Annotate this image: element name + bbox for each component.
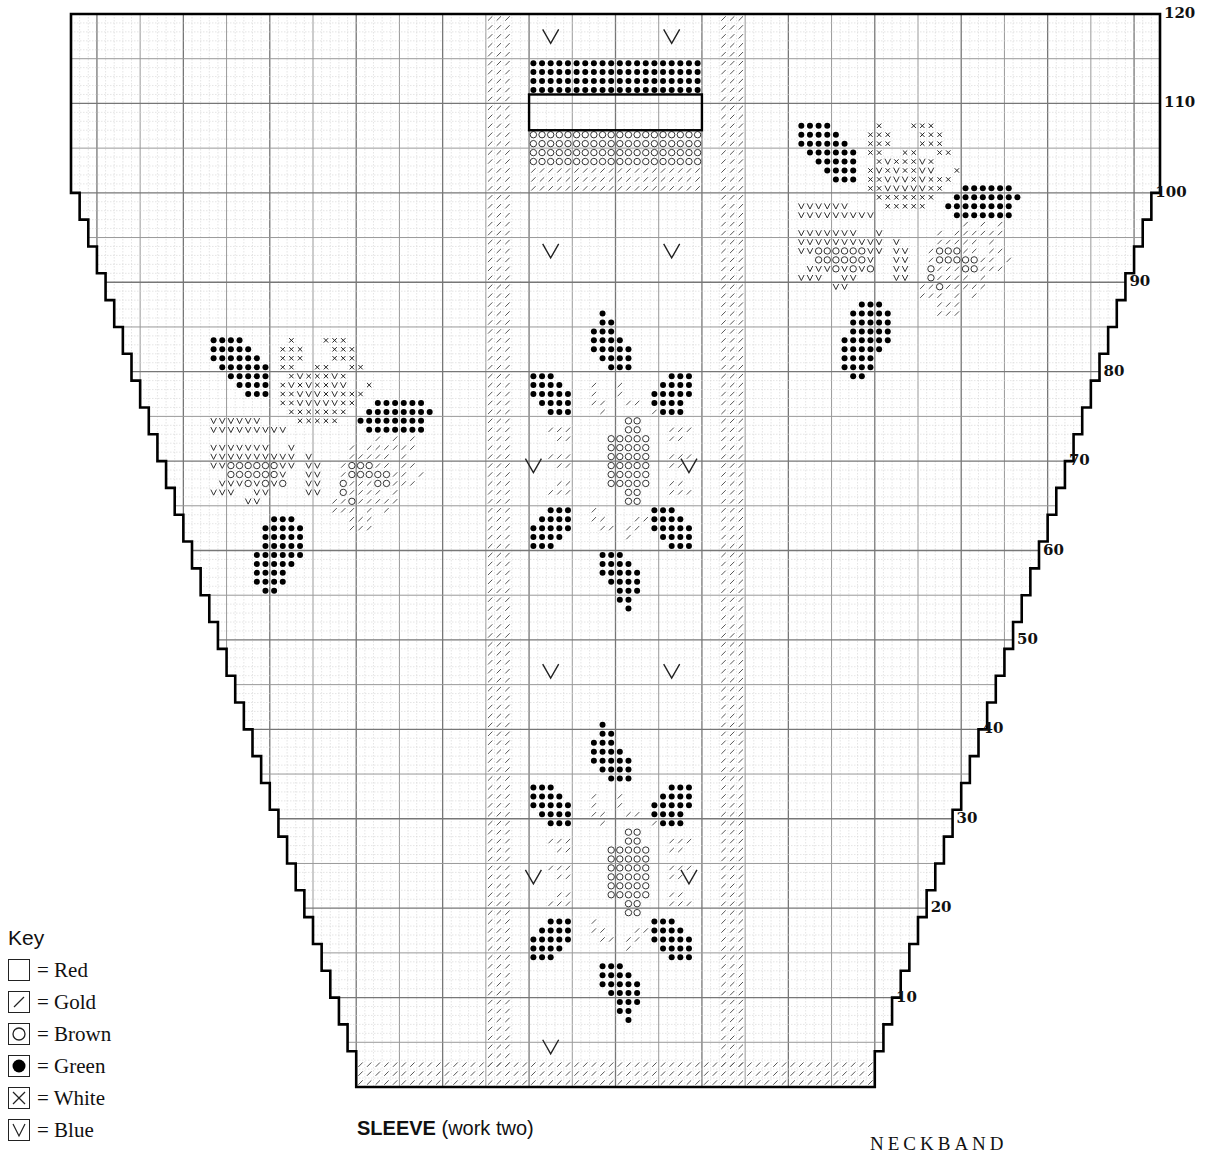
grid [71,14,1160,1087]
key-label: = Blue [37,1118,94,1143]
key-item-green: = Green [8,1050,111,1082]
key-label: = Gold [37,990,96,1015]
row-label: 100 [1155,185,1186,200]
key-label: = Green [37,1054,105,1079]
slash-icon [8,991,30,1013]
key-item-brown: = Brown [8,1018,111,1050]
chart-caption: SLEEVE (work two) [357,1117,534,1140]
key-item-blue: = Blue [8,1114,111,1146]
key-title: Key [8,926,111,950]
row-label: 10 [896,990,917,1005]
row-label: 60 [1043,543,1064,558]
row-label: 70 [1069,453,1090,468]
row-label: 30 [957,811,978,826]
row-label: 20 [931,900,952,915]
row-label: 80 [1104,364,1125,379]
chart-key: Key = Red= Gold= Brown= Green= White= Bl… [8,926,111,1146]
caption-bold: SLEEVE [357,1117,436,1139]
key-label: = White [37,1086,105,1111]
caption-rest: (work two) [436,1117,534,1139]
sleeve-chart [0,0,1216,1155]
key-item-white: = White [8,1082,111,1114]
key-label: = Red [37,958,88,983]
cross-icon [8,1087,30,1109]
blank-square-icon [8,959,30,981]
row-label: 40 [983,721,1004,736]
row-label: 50 [1017,632,1038,647]
vee-icon [8,1119,30,1141]
row-label: 110 [1164,95,1195,110]
key-item-red: = Red [8,954,111,986]
row-label: 90 [1129,274,1150,289]
open-circle-icon [8,1023,30,1045]
key-item-gold: = Gold [8,986,111,1018]
filled-dot-icon [8,1055,30,1077]
neckband-heading: NECKBAND [870,1133,1008,1155]
row-label: 120 [1164,6,1195,21]
key-label: = Brown [37,1022,111,1047]
